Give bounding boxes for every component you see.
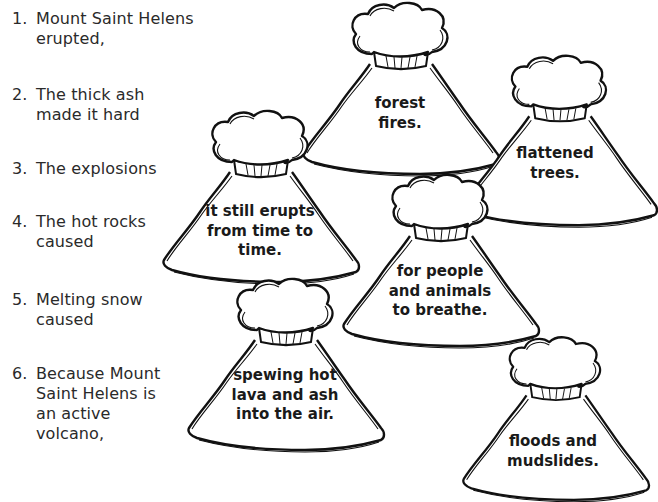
volcano-label: floods and mudslides.	[488, 432, 618, 471]
item-text: Mount Saint Helens erupted,	[36, 9, 206, 49]
volcano-card-floods-mudslides[interactable]: floods and mudslides.	[460, 338, 650, 502]
volcano-card-spewing-lava[interactable]: spewing hot lava and ash into the air.	[185, 280, 385, 452]
item-text: Because Mount Saint Helens is an active …	[36, 364, 206, 444]
item-text: Melting snow caused	[36, 290, 206, 330]
item-number: 3.	[12, 159, 36, 179]
volcano-label: it still erupts from time to time.	[195, 202, 325, 261]
volcano-card-still-erupts[interactable]: it still erupts from time to time.	[160, 112, 360, 284]
item-number: 5.	[12, 290, 36, 310]
volcano-label: spewing hot lava and ash into the air.	[215, 366, 355, 425]
volcano-label: for people and animals to breathe.	[370, 262, 510, 321]
item-number: 1.	[12, 9, 36, 29]
item-number: 4.	[12, 212, 36, 232]
volcano-icon	[460, 338, 650, 502]
item-number: 6.	[12, 364, 36, 384]
item-number: 2.	[12, 85, 36, 105]
